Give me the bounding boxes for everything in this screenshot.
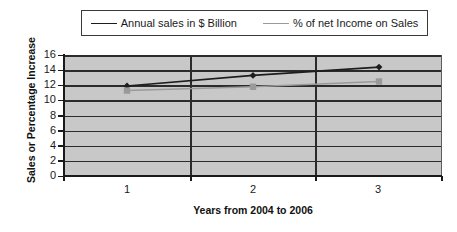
y-tick-label-4: 4 [20,139,56,151]
y-tick-label-10: 10 [20,93,56,105]
y-tick-label-14: 14 [20,63,56,75]
square-marker-icon [263,18,289,29]
y-tick-label-6: 6 [20,124,56,136]
y-tick-label-16: 16 [20,48,56,60]
line-chart: Annual sales in $ Billion % of net Incom… [0,0,457,232]
x-tick-label-3: 3 [363,183,393,195]
legend-label-annual-sales: Annual sales in $ Billion [121,17,237,29]
diamond-marker-icon [91,18,117,29]
y-tick-label-2: 2 [20,154,56,166]
y-tick-label-12: 12 [20,78,56,90]
chart-legend: Annual sales in $ Billion % of net Incom… [81,10,428,36]
category-separator-2 [315,55,317,176]
y-tick-label-8: 8 [20,109,56,121]
x-tick-label-2: 2 [238,183,268,195]
legend-item-annual-sales: Annual sales in $ Billion [91,17,237,29]
plot-area [64,55,442,176]
legend-label-net-income: % of net Income on Sales [293,17,418,29]
y-tick-label-0: 0 [20,169,56,181]
x-axis-title: Years from 2004 to 2006 [64,204,442,216]
category-separator-1 [190,55,192,176]
legend-item-net-income: % of net Income on Sales [263,17,418,29]
x-tick-label-1: 1 [112,183,142,195]
x-axis-line [63,175,442,177]
